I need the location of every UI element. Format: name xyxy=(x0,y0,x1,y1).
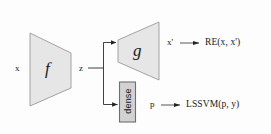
reconstruction-signal-label: x' xyxy=(167,38,173,47)
prediction-signal-label: p xyxy=(150,100,155,109)
encoder-label: f xyxy=(45,60,50,77)
figure-container: f g dense x z x' p RE(x, x') LSSVM(p, y) xyxy=(0,0,271,134)
classification-loss-label: LSSVM(p, y) xyxy=(186,100,239,110)
input-signal-label: x xyxy=(15,64,20,73)
encoder-block-shape xyxy=(30,33,71,106)
dense-label: dense xyxy=(123,85,133,117)
latent-signal-label: z xyxy=(79,64,83,73)
reconstruction-loss-label: RE(x, x') xyxy=(205,38,240,48)
decoder-label: g xyxy=(133,42,142,59)
diagram-canvas xyxy=(0,0,271,134)
